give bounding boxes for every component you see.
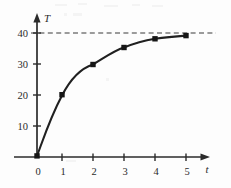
x-tick-label-3: 3 [122, 166, 127, 177]
data-point-marker [90, 62, 95, 67]
data-point-marker [59, 92, 64, 97]
y-tick-label-10: 10 [18, 121, 29, 132]
chart-figure: 40 30 20 10 0 1 2 3 4 5 T t [0, 0, 231, 188]
x-axis-label: t [205, 163, 209, 175]
x-tick-label-0: 0 [35, 166, 40, 177]
x-axis-arrowhead [201, 153, 211, 160]
x-tick-label-5: 5 [184, 166, 189, 177]
x-tick-label-4: 4 [153, 166, 159, 177]
y-tick-label-30: 30 [18, 59, 29, 70]
chart-plot-area: 40 30 20 10 0 1 2 3 4 5 T t [0, 0, 231, 188]
data-point-marker [152, 36, 157, 41]
data-point-marker [121, 45, 126, 50]
data-point-marker [183, 33, 188, 38]
data-point-marker [34, 153, 39, 158]
y-tick-label-40: 40 [18, 28, 29, 39]
y-axis-label: T [44, 12, 51, 24]
x-tick-label-2: 2 [91, 166, 96, 177]
y-tick-label-20: 20 [18, 90, 29, 101]
x-tick-label-1: 1 [60, 166, 65, 177]
y-axis-arrowhead [33, 13, 40, 23]
